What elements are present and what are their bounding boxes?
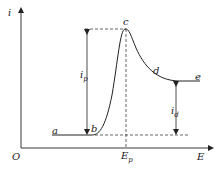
point-e-label: e: [195, 71, 201, 82]
x-axis-label: E: [196, 151, 205, 162]
point-b-label: b: [91, 123, 97, 134]
point-d-label: d: [153, 65, 159, 76]
point-c-label: c: [123, 16, 129, 27]
point-a-label: a: [52, 125, 58, 136]
voltammogram-diagram: i E O a b c d e ip id Ep: [0, 0, 221, 171]
y-axis-label: i: [8, 7, 11, 18]
diffusion-current-label: id: [171, 105, 179, 119]
peak-potential-label: Ep: [120, 150, 133, 164]
origin-label: O: [12, 151, 20, 162]
